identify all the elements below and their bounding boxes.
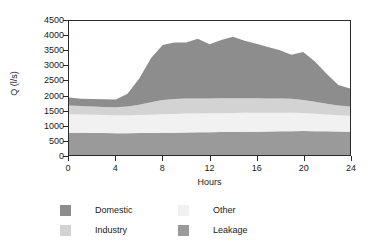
area-series-domestic <box>69 37 350 108</box>
legend-label: Industry <box>95 225 127 235</box>
stacked-area-chart: Q (l/s) 45004000350030002500200015001000… <box>0 0 374 249</box>
legend-swatch-industry <box>60 225 71 236</box>
x-tick-label: 4 <box>100 163 130 173</box>
x-tick-label: 0 <box>53 163 83 173</box>
y-tick-label: 0 <box>22 152 64 161</box>
legend-item-leakage[interactable]: Leakage <box>178 225 296 236</box>
x-tick-label: 24 <box>336 163 366 173</box>
x-axis-title: Hours <box>68 177 351 187</box>
x-tick-mark <box>210 156 211 161</box>
legend-label: Domestic <box>95 205 133 215</box>
y-tick-label: 1500 <box>22 106 64 115</box>
x-tick-label: 12 <box>195 163 225 173</box>
x-tick-mark <box>351 156 352 161</box>
y-tick-label: 2000 <box>22 91 64 100</box>
y-tick-label: 4000 <box>22 31 64 40</box>
legend-label: Leakage <box>213 225 248 235</box>
area-series-group <box>69 21 350 155</box>
legend-swatch-leakage <box>178 225 189 236</box>
area-series-other <box>69 113 350 133</box>
legend-item-other[interactable]: Other <box>178 205 296 216</box>
legend-item-domestic[interactable]: Domestic <box>60 205 178 216</box>
area-series-leakage <box>69 131 350 155</box>
legend-item-industry[interactable]: Industry <box>60 225 178 236</box>
x-tick-label: 8 <box>147 163 177 173</box>
y-tick-label: 500 <box>22 136 64 145</box>
x-tick-mark <box>257 156 258 161</box>
x-tick-label: 20 <box>289 163 319 173</box>
chart-legend: DomesticOtherIndustryLeakage <box>60 200 320 240</box>
x-tick-mark <box>68 156 69 161</box>
legend-swatch-domestic <box>60 205 71 216</box>
y-tick-label: 3000 <box>22 61 64 70</box>
plot-area <box>68 20 351 156</box>
y-tick-label: 4500 <box>22 16 64 25</box>
y-tick-label: 1000 <box>22 121 64 130</box>
y-tick-label: 2500 <box>22 76 64 85</box>
y-axis-tick-labels: 450040003500300025002000150010005000 <box>22 0 64 249</box>
legend-label: Other <box>213 205 236 215</box>
x-tick-mark <box>162 156 163 161</box>
y-axis-title: Q (l/s) <box>6 52 22 114</box>
x-tick-mark <box>304 156 305 161</box>
y-tick-label: 3500 <box>22 46 64 55</box>
legend-swatch-other <box>178 205 189 216</box>
x-tick-mark <box>115 156 116 161</box>
x-tick-label: 16 <box>242 163 272 173</box>
y-axis-title-text: Q (l/s) <box>10 71 19 96</box>
